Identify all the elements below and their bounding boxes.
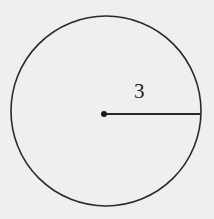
circle-diagram: 3 (0, 0, 214, 219)
circle-outline (11, 16, 201, 206)
radius-label: 3 (134, 79, 145, 103)
center-point (101, 111, 107, 117)
